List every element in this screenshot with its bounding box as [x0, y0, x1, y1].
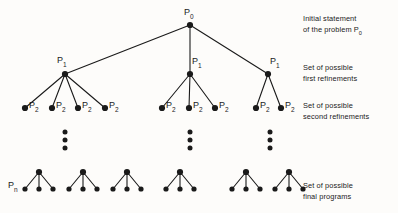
node-label-p2: P2 — [82, 101, 92, 112]
node-label-p1: P1 — [270, 57, 280, 68]
side-label-first-refinements: Set of possiblefirst refinements — [303, 63, 357, 84]
final-program-leaf-node — [191, 186, 196, 191]
node-label-p2: P2 — [166, 101, 176, 112]
node-label-p1: P1 — [192, 57, 202, 68]
refinement-tree-figure: P0P1P1P1P2P2P2P2P2P2P2P2P2Pn Initial sta… — [0, 0, 398, 213]
final-program-leaf-node — [124, 186, 129, 191]
final-program-leaf-node — [229, 186, 234, 191]
final-program-leaf-node — [22, 186, 27, 191]
ellipsis-dot — [188, 146, 193, 151]
tree-node-level2 — [22, 105, 28, 111]
final-programs-layer — [22, 169, 305, 192]
final-program-edge — [289, 172, 303, 189]
final-program-edge — [166, 172, 180, 189]
final-program-leaf-node — [66, 186, 71, 191]
final-program-leaf-node — [94, 186, 99, 191]
node-label-p2: P2 — [285, 101, 295, 112]
tree-node-level2 — [102, 105, 108, 111]
final-program-edge — [246, 172, 260, 189]
side-label-second-refinements: Set of possiblesecond refinements — [303, 101, 369, 122]
node-label-p2: P2 — [56, 101, 66, 112]
tree-node-level1 — [62, 71, 68, 77]
final-program-parent-node — [243, 169, 249, 175]
tree-node-level2 — [159, 105, 165, 111]
node-label-p2: P2 — [219, 101, 229, 112]
node-label-p1: P1 — [57, 56, 67, 67]
final-program-leaf-node — [110, 186, 115, 191]
final-program-parent-node — [80, 169, 86, 175]
tree-node-root — [187, 22, 193, 28]
ellipsis-dot — [63, 130, 68, 135]
side-label-initial-statement: Initial statementof the problem P0 — [303, 14, 362, 37]
ellipsis-dot — [63, 146, 68, 151]
side-label-line2: second refinements — [303, 112, 369, 123]
final-program-edge — [69, 172, 83, 189]
ellipsis-dot — [188, 130, 193, 135]
final-program-parent-node — [177, 169, 183, 175]
final-program-leaf-node — [138, 186, 143, 191]
node-label-p2: P2 — [29, 101, 39, 112]
side-label-line1: Set of possible — [303, 181, 353, 190]
final-program-parent-node — [124, 169, 130, 175]
tree-node-level2 — [278, 105, 284, 111]
ellipsis-dot — [268, 138, 273, 143]
tree-node-level2 — [75, 105, 81, 111]
side-label-line1: Set of possible — [303, 101, 353, 110]
tree-node-level2 — [253, 105, 259, 111]
ellipsis-dot — [268, 146, 273, 151]
tree-node-level2 — [186, 105, 192, 111]
tree-node-level1 — [187, 71, 193, 77]
final-program-edge — [232, 172, 246, 189]
tree-node-level2 — [212, 105, 218, 111]
final-program-edge — [83, 172, 97, 189]
ellipsis-dot — [63, 138, 68, 143]
side-label-line1: Set of possible — [303, 63, 353, 72]
final-program-edge — [180, 172, 194, 189]
final-program-edge — [127, 172, 141, 189]
final-program-leaf-node — [272, 186, 277, 191]
node-label-p2: P2 — [260, 101, 270, 112]
final-program-leaf-node — [177, 186, 182, 191]
ellipsis-dot — [188, 138, 193, 143]
final-program-leaf-node — [286, 186, 291, 191]
final-program-leaf-node — [36, 186, 41, 191]
final-program-edge — [275, 172, 289, 189]
final-program-leaf-node — [50, 186, 55, 191]
side-label-final-programs: Set of possiblefinal programs — [303, 181, 353, 202]
tree-node-level2 — [49, 105, 55, 111]
side-label-line2: final programs — [303, 192, 353, 203]
tree-edge — [189, 74, 190, 108]
ellipsis-dot — [268, 130, 273, 135]
ellipsis-dots-layer — [63, 130, 273, 151]
side-label-line1: Initial statement — [303, 14, 356, 23]
final-program-parent-node — [286, 169, 292, 175]
tree-edge — [268, 74, 281, 108]
node-label-p2: P2 — [109, 101, 119, 112]
final-program-leaf-node — [243, 186, 248, 191]
final-program-leaf-node — [163, 186, 168, 191]
tree-node-level1 — [265, 71, 271, 77]
node-label-p0: P0 — [184, 8, 194, 19]
final-program-edge — [25, 172, 39, 189]
side-label-line2: of the problem P0 — [303, 25, 362, 37]
side-label-line2: first refinements — [303, 74, 357, 85]
final-program-edge — [113, 172, 127, 189]
final-program-leaf-node — [80, 186, 85, 191]
node-label-p2: P2 — [193, 101, 203, 112]
final-program-leaf-node — [257, 186, 262, 191]
final-program-edge — [39, 172, 53, 189]
node-label-pn: Pn — [8, 181, 18, 192]
final-program-parent-node — [36, 169, 42, 175]
tree-edge — [65, 25, 190, 74]
